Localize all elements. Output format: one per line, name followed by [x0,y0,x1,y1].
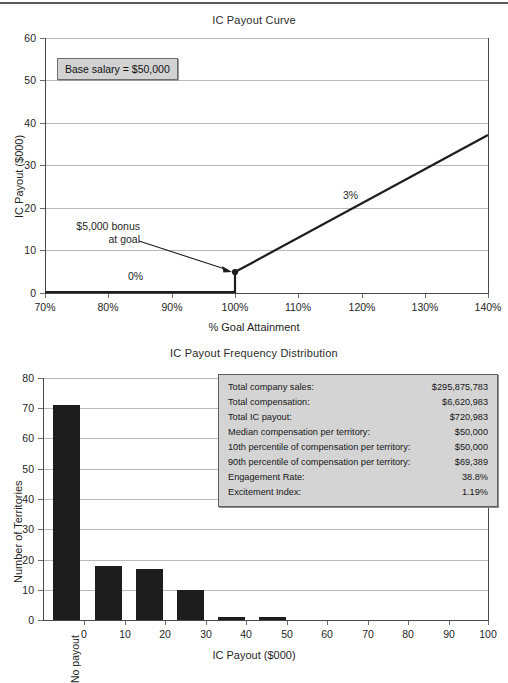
stats-value: 38.8% [450,470,488,485]
stats-row: 90th percentile of compensation per terr… [228,455,488,470]
xtick-mark-10-b [125,621,126,625]
xtick-mark-100-b [488,621,489,625]
stats-row: Total company sales: $295,875,783 [228,380,488,395]
ytick-mark-40-b [38,499,43,500]
stats-value: $720,983 [438,410,488,425]
ytick-label-30-b: 30 [8,524,34,535]
ic-payout-frequency-chart: IC Payout Frequency Distribution Number … [0,340,508,678]
bonus-callout-arrow-shaft [139,241,228,270]
stats-key: Excitement Index: [228,485,301,500]
xtick-mark-70-b [368,621,369,625]
ytick-label-10-b: 10 [8,585,34,596]
stats-key: 10th percentile of compensation per terr… [228,440,410,455]
page-top-rule [0,2,508,4]
stats-row: Median compensation per territory: $50,0… [228,425,488,440]
bar-12-17 [136,569,163,620]
ytick-label-0-b: 0 [8,615,34,626]
ytick-mark-30-b [38,529,43,530]
xtick-mark-80-b [408,621,409,625]
ytick-label-80-b: 80 [8,373,34,384]
y-axis-line-bottom [43,378,44,621]
chart-title-bottom: IC Payout Frequency Distribution [0,347,508,359]
stats-key: 90th percentile of compensation per terr… [228,455,410,470]
ytick-mark-60-b [38,438,43,439]
ic-payout-curve-chart: IC Payout Curve IC Payout ($000) 60 50 4… [0,8,508,340]
bonus-callout-label-line1: $5,000 bonus [38,220,140,233]
x-axis-line-bottom [43,620,489,621]
xtick-mark-60-b [327,621,328,625]
stats-row: Excitement Index: 1.19% [228,485,488,500]
bar-0-7 [95,566,122,620]
ytick-mark-10-b [38,590,43,591]
ytick-mark-50-b [38,469,43,470]
payout-curve-path [45,135,488,292]
stats-key: Median compensation per territory: [228,425,370,440]
stats-value: $6,620,983 [430,395,488,410]
xtick-label-60-b: 60 [307,629,347,640]
stats-key: Total company sales: [228,380,314,395]
ytick-mark-0-b [38,620,43,621]
xtick-label-50-b: 50 [267,629,307,640]
ytick-mark-80-b [38,378,43,379]
stats-key: Engagement Rate: [228,470,305,485]
flat-rate-label: 0% [128,270,143,282]
stats-key: Total compensation: [228,395,310,410]
xtick-label-30-b: 30 [186,629,226,640]
x-axis-title-bottom: IC Payout ($000) [0,650,508,661]
xtick-mark-40-b [246,621,247,625]
xtick-mark-20-b [165,621,166,625]
gridline-30 [43,529,489,530]
xtick-label-70-b: 70 [348,629,388,640]
xtick-mark-0-b [84,621,85,625]
ytick-label-50-b: 50 [8,464,34,475]
xtick-mark-50-b [287,621,288,625]
xtick-mark-90-b [449,621,450,625]
xtick-mark-30-b [206,621,207,625]
bonus-callout-label-line2: at goal [38,233,140,246]
xtick-label-80-b: 80 [388,629,428,640]
ytick-label-60-b: 60 [8,433,34,444]
summary-stats-box: Total company sales: $295,875,783 Total … [218,374,498,507]
ytick-label-70-b: 70 [8,403,34,414]
ytick-mark-20-b [38,560,43,561]
bonus-callout-arrow-head [222,266,232,273]
ytick-label-20-b: 20 [8,555,34,566]
xtick-label-40-b: 40 [226,629,266,640]
stats-row: 10th percentile of compensation per terr… [228,440,488,455]
goal-point-marker [232,269,238,275]
xtick-label-20-b: 20 [145,629,185,640]
base-salary-callout: Base salary = $50,000 [57,58,178,80]
bar-22-27 [177,590,204,620]
stats-value: $50,000 [443,440,488,455]
gridline-20 [43,560,489,561]
xtick-label-100-b: 100 [468,629,508,640]
ytick-label-40-b: 40 [8,494,34,505]
stats-key: Total IC payout: [228,410,292,425]
stats-value: $295,875,783 [420,380,488,395]
stats-value: $69,389 [443,455,488,470]
xtick-label-10-b: 10 [105,629,145,640]
ytick-mark-70-b [38,408,43,409]
xtick-label-90-b: 90 [429,629,469,640]
stats-row: Total IC payout: $720,983 [228,410,488,425]
bar-no-payout [53,405,80,620]
stats-row: Engagement Rate: 38.8% [228,470,488,485]
stats-value: $50,000 [443,425,488,440]
stats-row: Total compensation: $6,620,983 [228,395,488,410]
stats-value: 1.19% [450,485,488,500]
slope-rate-label: 3% [343,189,358,201]
